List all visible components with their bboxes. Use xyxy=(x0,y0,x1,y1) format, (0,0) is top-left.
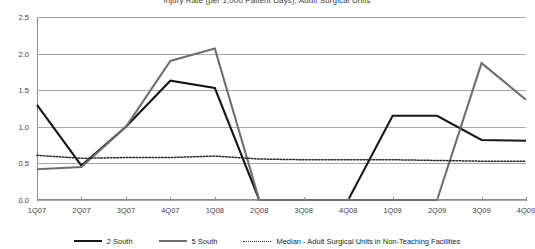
x-axis-tick xyxy=(393,197,394,201)
x-axis-tick xyxy=(482,197,483,201)
legend-label: 5 South xyxy=(192,238,218,246)
x-axis-tick xyxy=(170,197,171,201)
legend-item[interactable]: 5 South xyxy=(159,238,218,246)
x-axis-tick xyxy=(348,197,349,201)
x-axis-tick xyxy=(304,197,305,201)
x-tick-label-2Q08: 2Q08 xyxy=(250,206,268,215)
legend-label: 2 South xyxy=(107,238,133,246)
x-tick-label-3Q07: 3Q07 xyxy=(117,206,135,215)
y-tick-label: 0.5 xyxy=(19,159,29,168)
x-axis-tick xyxy=(81,197,82,201)
legend-label: Median - Adult Surgical Units in Non-Tea… xyxy=(276,238,460,246)
y-tick-label: 0.0 xyxy=(19,196,29,205)
y-tick-label: 1.0 xyxy=(19,122,29,131)
y-tick-label: 2.0 xyxy=(19,49,29,58)
y-axis-labels: 0.00.51.01.52.02.5 xyxy=(0,17,33,200)
x-axis-tick xyxy=(126,197,127,201)
y-tick-label: 1.5 xyxy=(19,86,29,95)
chart-legend: 2 South5 SouthMedian - Adult Surgical Un… xyxy=(0,238,534,246)
legend-swatch-icon xyxy=(243,241,271,242)
chart-title: Injury Rate (per 1,000 Patient Days), Ad… xyxy=(0,0,534,6)
x-tick-label-1Q09: 1Q09 xyxy=(383,206,401,215)
x-axis-tick xyxy=(437,197,438,201)
x-tick-label-1Q08: 1Q08 xyxy=(206,206,224,215)
x-axis-tick xyxy=(215,197,216,201)
series-line-median-adult-surgical-units-in-non-teaching-facilities xyxy=(37,155,526,161)
x-axis-tick xyxy=(259,197,260,201)
x-tick-label-1Q07: 1Q07 xyxy=(28,206,46,215)
x-axis-labels: 1Q072Q073Q074Q071Q082Q083Q084Q081Q092Q09… xyxy=(37,203,526,217)
x-tick-label-4Q09: 4Q09 xyxy=(517,206,535,215)
x-axis-tick xyxy=(37,197,38,201)
x-tick-label-2Q07: 2Q07 xyxy=(72,206,90,215)
y-tick-label: 2.5 xyxy=(19,13,29,22)
series-lines xyxy=(37,17,526,200)
x-tick-label-3Q08: 3Q08 xyxy=(295,206,313,215)
legend-item[interactable]: Median - Adult Surgical Units in Non-Tea… xyxy=(243,238,460,246)
x-tick-label-2Q09: 2Q09 xyxy=(428,206,446,215)
legend-swatch-icon xyxy=(159,240,187,242)
legend-swatch-icon xyxy=(74,240,102,242)
plot-area xyxy=(37,17,526,200)
legend-item[interactable]: 2 South xyxy=(74,238,133,246)
x-tick-label-4Q08: 4Q08 xyxy=(339,206,357,215)
x-tick-label-4Q07: 4Q07 xyxy=(161,206,179,215)
x-tick-label-3Q09: 3Q09 xyxy=(472,206,490,215)
x-axis-tick xyxy=(526,197,527,201)
